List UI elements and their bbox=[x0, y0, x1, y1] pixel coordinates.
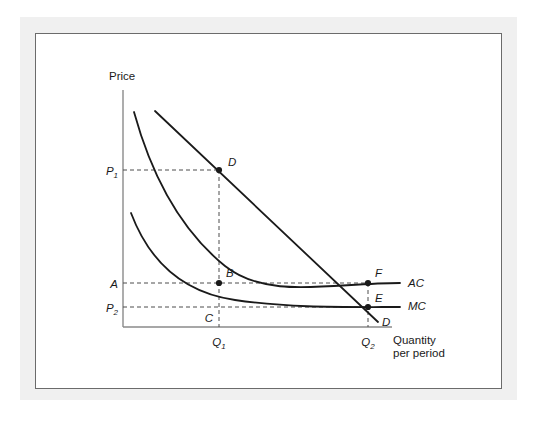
point-e-marker bbox=[365, 304, 371, 310]
y-tick-labels-group: P1 A P2 bbox=[106, 165, 119, 317]
curve-label-demand: D bbox=[382, 316, 390, 328]
x-tick-labels-group: Q1 Q2 bbox=[212, 336, 375, 351]
point-f-marker bbox=[365, 280, 371, 286]
demand-curve bbox=[155, 111, 378, 322]
point-label-e: E bbox=[375, 292, 383, 304]
natural-monopoly-chart: Price Quantity per period P1 A P2 Q1 Q2 … bbox=[0, 0, 537, 423]
point-label-d: D bbox=[228, 156, 236, 168]
point-d-marker bbox=[216, 167, 222, 173]
y-tick-p2: P2 bbox=[106, 302, 119, 317]
ac-curve bbox=[134, 112, 400, 287]
y-tick-p1: P1 bbox=[106, 165, 118, 180]
curve-label-mc: MC bbox=[408, 300, 427, 312]
point-label-c: C bbox=[205, 312, 214, 324]
x-axis-title-line1: Quantity bbox=[393, 334, 436, 346]
y-axis-title: Price bbox=[109, 70, 135, 82]
x-axis-title-line2: per period bbox=[393, 347, 445, 359]
point-label-f: F bbox=[375, 267, 383, 279]
mc-curve bbox=[131, 213, 400, 307]
curve-label-ac: AC bbox=[407, 277, 425, 289]
y-tick-a: A bbox=[109, 278, 118, 290]
point-b-marker bbox=[216, 280, 222, 286]
curves-group bbox=[131, 111, 400, 322]
marked-points-group bbox=[216, 167, 371, 310]
guide-lines-group bbox=[123, 170, 368, 327]
x-tick-q1: Q1 bbox=[212, 336, 225, 351]
figure-page: Price Quantity per period P1 A P2 Q1 Q2 … bbox=[0, 0, 537, 423]
x-tick-q2: Q2 bbox=[361, 336, 375, 351]
curve-labels-group: AC MC D bbox=[382, 277, 427, 328]
point-label-b: B bbox=[226, 267, 234, 279]
